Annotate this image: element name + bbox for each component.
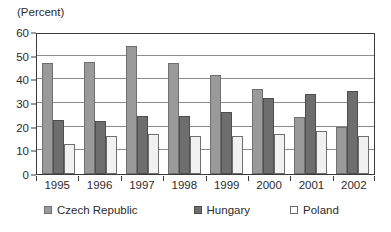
bar-chart: (Percent) 0102030405060 1995199619971998… bbox=[0, 0, 391, 232]
bar-group bbox=[79, 34, 121, 174]
bar bbox=[274, 134, 285, 174]
bar bbox=[190, 136, 201, 174]
bar bbox=[126, 46, 137, 174]
bar-group bbox=[121, 34, 163, 174]
bar bbox=[64, 144, 75, 174]
y-axis-tick-label: 30 bbox=[16, 98, 29, 110]
plot-area bbox=[36, 33, 375, 175]
bar-group bbox=[37, 34, 79, 174]
x-axis-tick-label: 1995 bbox=[36, 176, 78, 196]
legend-swatch-icon bbox=[290, 206, 298, 214]
bar bbox=[53, 120, 64, 174]
legend-label: Poland bbox=[303, 204, 339, 217]
bar bbox=[232, 136, 243, 174]
legend-swatch-icon bbox=[44, 206, 52, 214]
bar-group bbox=[163, 34, 205, 174]
y-axis-tick-label: 20 bbox=[16, 122, 29, 134]
x-axis-tick-mark bbox=[121, 176, 122, 181]
x-axis-tick-label: 1998 bbox=[163, 176, 205, 196]
bar bbox=[316, 131, 327, 174]
bar bbox=[137, 116, 148, 174]
x-axis-tick-mark bbox=[248, 176, 249, 181]
chart-legend: Czech RepublicHungaryPoland bbox=[36, 201, 366, 219]
y-axis-tick-label: 0 bbox=[23, 169, 29, 181]
x-axis-tick-label: 1996 bbox=[78, 176, 120, 196]
bar-group bbox=[332, 34, 374, 174]
bar bbox=[106, 136, 117, 174]
bar bbox=[252, 89, 263, 174]
bar bbox=[347, 91, 358, 174]
legend-item: Czech Republic bbox=[44, 204, 138, 217]
bar bbox=[294, 117, 305, 174]
legend-item: Poland bbox=[290, 204, 339, 217]
bar bbox=[336, 127, 347, 174]
bars-layer bbox=[37, 34, 374, 174]
x-axis-tick-mark bbox=[290, 176, 291, 181]
legend-label: Czech Republic bbox=[57, 204, 138, 217]
y-axis-tick-label: 40 bbox=[16, 74, 29, 86]
legend-label: Hungary bbox=[207, 204, 250, 217]
y-axis-tick-label: 60 bbox=[16, 27, 29, 39]
x-axis-tick-mark bbox=[206, 176, 207, 181]
y-axis-tick-label: 10 bbox=[16, 145, 29, 157]
x-axis-tick-mark bbox=[78, 176, 79, 181]
bar bbox=[84, 62, 95, 174]
bar bbox=[95, 121, 106, 174]
x-axis: 19951996199719981999200020012002 bbox=[36, 176, 375, 196]
bar bbox=[179, 116, 190, 174]
bar bbox=[358, 136, 369, 174]
x-axis-tick-label: 2000 bbox=[248, 176, 290, 196]
bar-group bbox=[248, 34, 290, 174]
x-axis-tick-label: 2002 bbox=[333, 176, 375, 196]
x-axis-tick-mark bbox=[163, 176, 164, 181]
y-axis-unit-label: (Percent) bbox=[17, 5, 64, 19]
x-axis-tick-mark bbox=[36, 176, 37, 181]
bar-group bbox=[290, 34, 332, 174]
bar bbox=[168, 63, 179, 174]
bar bbox=[148, 134, 159, 174]
x-axis-tick-label: 2001 bbox=[290, 176, 332, 196]
bar bbox=[263, 98, 274, 174]
x-axis-tick-label: 1999 bbox=[206, 176, 248, 196]
y-axis-tick-label: 50 bbox=[16, 51, 29, 63]
y-axis: 0102030405060 bbox=[0, 26, 36, 182]
bar bbox=[305, 94, 316, 174]
x-axis-tick-mark bbox=[333, 176, 334, 181]
bar bbox=[210, 75, 221, 174]
bar-group bbox=[206, 34, 248, 174]
bar bbox=[42, 63, 53, 174]
bar bbox=[221, 112, 232, 174]
x-axis-tick-label: 1997 bbox=[121, 176, 163, 196]
legend-item: Hungary bbox=[194, 204, 250, 217]
legend-swatch-icon bbox=[194, 206, 202, 214]
x-axis-tick-mark bbox=[374, 176, 375, 181]
